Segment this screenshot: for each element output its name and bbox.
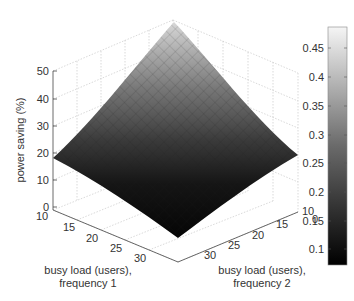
svg-text:10: 10 (37, 174, 49, 186)
svg-text:25: 25 (228, 239, 240, 251)
svg-text:10: 10 (36, 210, 48, 222)
svg-text:0.35: 0.35 (303, 100, 324, 112)
svg-text:15: 15 (63, 221, 75, 233)
svg-text:25: 25 (110, 242, 122, 254)
svg-text:0.4: 0.4 (309, 71, 324, 83)
svg-text:20: 20 (37, 147, 49, 159)
svg-text:50: 50 (37, 65, 49, 77)
svg-text:15: 15 (276, 218, 288, 230)
surface-plot: 50 40 30 20 10 0 10 15 20 25 30 10 15 20… (0, 0, 354, 301)
svg-text:20: 20 (86, 232, 98, 244)
svg-text:30: 30 (204, 249, 216, 261)
colorbar: 0.45 0.4 0.35 0.3 0.25 0.2 0.15 0.1 (303, 27, 347, 265)
z-axis-label: power saving (%) (14, 98, 26, 183)
svg-text:0.2: 0.2 (309, 186, 324, 198)
svg-text:0.15: 0.15 (303, 215, 324, 227)
x-axis-label-line1: busy load (users), (44, 264, 131, 276)
z-axis-ticks: 50 40 30 20 10 0 (37, 65, 49, 213)
svg-text:0.45: 0.45 (303, 42, 324, 54)
svg-text:0.25: 0.25 (303, 157, 324, 169)
svg-text:30: 30 (37, 120, 49, 132)
svg-text:0.1: 0.1 (309, 243, 324, 255)
svg-text:30: 30 (134, 252, 146, 264)
y-axis-ticks: 10 15 20 25 30 0 (204, 205, 318, 261)
x-axis-label-line2: frequency 1 (59, 277, 116, 289)
svg-text:40: 40 (37, 93, 49, 105)
y-axis-label-line2: frequency 2 (233, 277, 290, 289)
svg-text:20: 20 (252, 229, 264, 241)
y-axis-label-line1: busy load (users), (218, 264, 305, 276)
svg-text:0.3: 0.3 (309, 129, 324, 141)
